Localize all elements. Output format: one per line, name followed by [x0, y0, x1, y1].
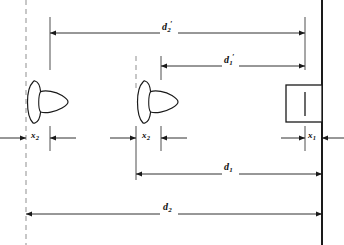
label-d2-sub: 2: [168, 206, 172, 214]
lens-far-body: [28, 81, 69, 123]
label-x1-sub: 1: [313, 134, 316, 141]
label-d1-prime-mark: ′: [232, 53, 234, 62]
label-d2-prime-mark: ′: [170, 20, 172, 29]
image-block: [286, 85, 322, 122]
label-x1-base: x: [308, 130, 313, 140]
lens-near-body: [138, 81, 179, 123]
label-d1-prime: d1′: [224, 54, 234, 67]
lens-near: [138, 81, 179, 123]
optics-distance-figure: d2′ d1′ x2 x2 x1 d1 d2: [0, 0, 344, 245]
label-x2-far-base: x: [31, 130, 36, 140]
label-x2-far: x2: [31, 131, 39, 142]
label-x2-near-sub: 2: [147, 134, 150, 141]
label-x2-near-base: x: [142, 130, 147, 140]
label-d1-sub: 1: [229, 166, 233, 174]
label-d2: d2: [163, 202, 172, 214]
figure-canvas: [0, 0, 344, 245]
label-x1: x1: [308, 131, 316, 142]
label-x2-far-sub: 2: [36, 134, 39, 141]
label-x2-near: x2: [142, 131, 150, 142]
label-d1: d1: [224, 162, 233, 174]
label-d2-prime: d2′: [162, 21, 172, 34]
lens-far: [28, 81, 69, 123]
